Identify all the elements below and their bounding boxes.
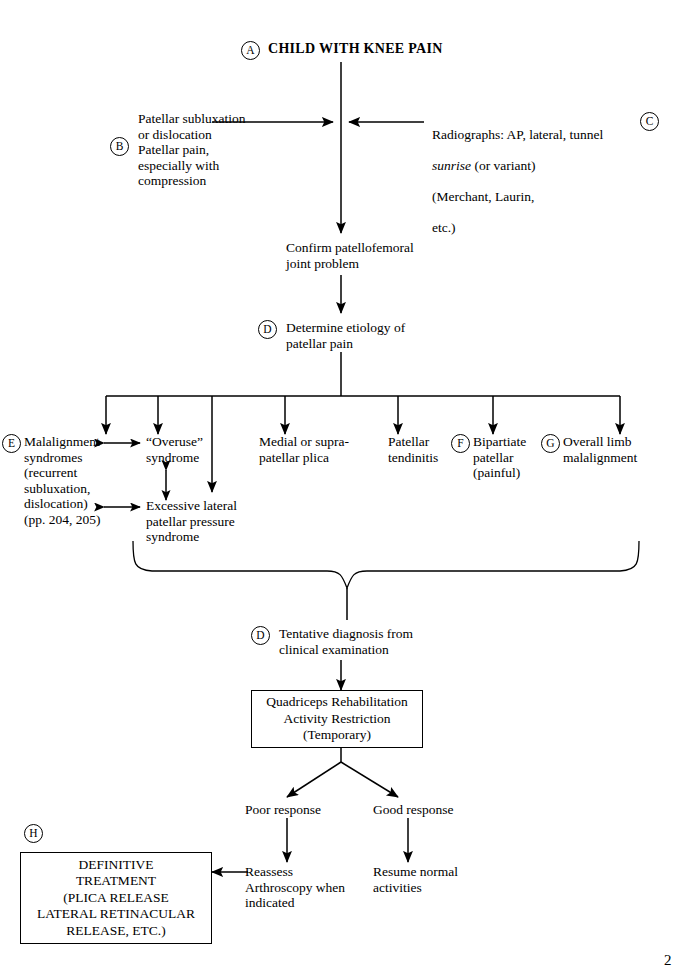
page-number: 2: [664, 952, 678, 977]
definitive-treatment-box: DEFINITIVE TREATMENT (PLICA RELEASE LATE…: [20, 852, 212, 944]
tag-a: A: [241, 41, 260, 60]
root-title: CHILD WITH KNEE PAIN: [268, 41, 443, 57]
tag-d2: D: [251, 626, 270, 645]
tag-f: F: [451, 434, 470, 453]
branch-overall-limb: Overall limb malalignment: [563, 434, 637, 465]
branch-plica: Medial or supra- patellar plica: [259, 434, 349, 465]
branch-malalignment: Malalignment syndromes (recurrent sublux…: [24, 434, 101, 527]
right-input-node: Radiographs: AP, lateral, tunnel sunrise…: [432, 111, 603, 235]
right-input-italic: sunrise: [432, 158, 471, 173]
tag-d1: D: [258, 320, 277, 339]
right-input-line1: Radiographs: AP, lateral, tunnel: [432, 127, 603, 142]
left-input-node: Patellar subluxation or dislocation Pate…: [138, 111, 246, 189]
determine-node: Determine etiology of patellar pain: [286, 320, 405, 351]
tag-g: G: [541, 434, 560, 453]
right-input-line3: (Merchant, Laurin,: [432, 189, 534, 204]
poor-response-node: Poor response: [245, 802, 321, 818]
branch-overuse: “Overuse” syndrome: [146, 434, 203, 465]
reassess-node: Reassess Arthroscopy when indicated: [245, 864, 345, 911]
resume-node: Resume normal activities: [373, 864, 458, 895]
tentative-node: Tentative diagnosis from clinical examin…: [279, 626, 413, 657]
tag-b: B: [110, 137, 129, 156]
right-input-line4: etc.): [432, 220, 456, 235]
right-input-line2-rest: (or variant): [471, 158, 535, 173]
good-response-node: Good response: [373, 802, 454, 818]
arrow-to-good-response: [341, 762, 398, 797]
convergence-brace: [133, 541, 639, 588]
tag-h: H: [24, 824, 43, 843]
tag-e: E: [2, 434, 21, 453]
confirm-node: Confirm patellofemoral joint problem: [286, 240, 414, 271]
branch-excessive: Excessive lateral patellar pressure synd…: [146, 498, 237, 545]
branch-bipartiate: Bipartiate patellar (painful): [473, 434, 526, 481]
flowchart-canvas: A CHILD WITH KNEE PAIN B Patellar sublux…: [0, 0, 680, 977]
arrow-to-poor-response: [287, 762, 341, 797]
rehab-box: Quadriceps Rehabilitation Activity Restr…: [251, 690, 423, 748]
branch-tendinitis: Patellar tendinitis: [388, 434, 438, 465]
tag-c: C: [640, 112, 659, 131]
